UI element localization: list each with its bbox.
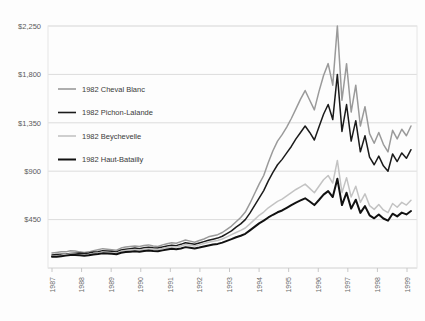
y-axis-tick-label: $900 bbox=[24, 167, 41, 176]
x-axis-tick-label: 1988 bbox=[78, 277, 85, 293]
legend-label: 1982 Pichon-Lalande bbox=[82, 108, 153, 117]
x-axis-tick-label: 1991 bbox=[167, 277, 174, 293]
y-axis-tick-label: $450 bbox=[24, 215, 41, 224]
x-axis-tick-label: 1993 bbox=[226, 277, 233, 293]
x-axis-tick-label: 1994 bbox=[256, 277, 263, 293]
legend-label: 1982 Cheval Blanc bbox=[82, 85, 145, 94]
x-axis-tick-label: 1987 bbox=[49, 277, 56, 293]
x-axis-tick-label: 1992 bbox=[196, 277, 203, 293]
x-axis-tick-label: 1998 bbox=[374, 277, 381, 293]
x-axis-tick-label: 1989 bbox=[108, 277, 115, 293]
x-axis-tick-label: 1995 bbox=[285, 277, 292, 293]
legend-label: 1982 Haut-Batailly bbox=[82, 155, 144, 164]
x-axis-tick-label: 1999 bbox=[404, 277, 411, 293]
price-history-line-chart: $450$900$1,350$1,800$2,250 1987198819891… bbox=[0, 0, 425, 321]
y-axis-tick-label: $1,350 bbox=[18, 119, 41, 128]
y-axis-tick-label: $2,250 bbox=[18, 22, 41, 31]
x-axis-tick-label: 1996 bbox=[315, 277, 322, 293]
x-axis-tick-label: 1990 bbox=[137, 277, 144, 293]
legend-label: 1982 Beychevelle bbox=[82, 132, 141, 141]
y-axis-tick-label: $1,800 bbox=[18, 70, 41, 79]
x-axis-tick-label: 1997 bbox=[344, 277, 351, 293]
